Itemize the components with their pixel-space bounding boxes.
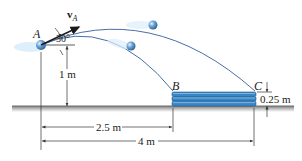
velocity-subscript: A [73,14,78,23]
ground [12,106,294,112]
point-label-B: B [172,80,179,92]
trajectory-to-B [41,36,173,91]
ball-lower-trajectory [127,42,136,51]
launch-height-label: 1 m [59,69,76,80]
point-label-A: A [33,28,40,40]
stack-of-boards [172,92,256,106]
distance-C-label: 4 m [138,136,155,147]
ball-upper-trajectory [149,21,158,30]
point-label-C: C [254,80,262,92]
angle-label: 30° [56,34,70,44]
velocity-label: vA [67,9,77,23]
distance-B-label: 2.5 m [96,122,121,133]
trajectories [41,29,255,91]
stack-height-label: 0.25 m [260,94,291,105]
trajectory-to-C [41,29,255,91]
